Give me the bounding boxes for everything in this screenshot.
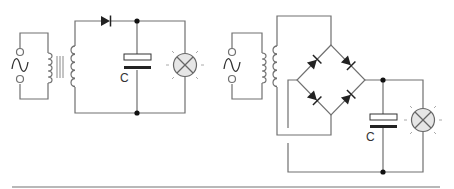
- bridge-rectifier-icon: [306, 55, 355, 106]
- transformer-icon: [48, 46, 75, 87]
- circuit-diagram: C: [0, 0, 454, 189]
- junction-dot: [134, 18, 139, 23]
- bridge-wire: [297, 45, 365, 115]
- junction-dot: [380, 77, 385, 82]
- junction-dot: [380, 169, 385, 174]
- ac-source-icon: [12, 49, 28, 83]
- primary-wire: [232, 33, 262, 99]
- secondary-wire: [277, 16, 331, 135]
- full-wave-circuit: C: [224, 16, 442, 175]
- capacitor-label: C: [366, 130, 375, 144]
- capacitor-icon: [124, 54, 151, 69]
- primary-wire: [20, 33, 48, 99]
- ac-source-icon: [224, 49, 240, 83]
- negative-wire: [288, 80, 423, 172]
- transformer-icon: [262, 46, 277, 87]
- diode-icon: [101, 16, 111, 27]
- capacitor-label: C: [120, 71, 129, 85]
- half-wave-circuit: C: [12, 16, 204, 116]
- capacitor-icon: [370, 114, 397, 128]
- junction-dot: [134, 110, 139, 115]
